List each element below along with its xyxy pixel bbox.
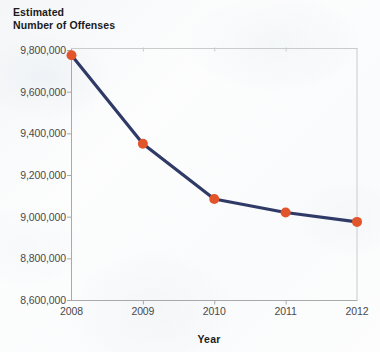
data-markers	[67, 50, 363, 227]
data-point-marker	[67, 50, 77, 60]
data-point-marker	[281, 208, 291, 218]
x-axis-ticks	[143, 48, 286, 305]
x-axis-tick-label: 2012	[346, 305, 369, 317]
x-axis-title: Year	[0, 333, 380, 345]
x-axis-tick-label: 2009	[131, 305, 154, 317]
x-axis-tick-label: 2008	[60, 305, 83, 317]
x-axis-tick-label: 2011	[275, 305, 297, 317]
plot-area	[0, 0, 380, 352]
data-point-marker	[138, 139, 148, 149]
data-point-marker	[352, 217, 362, 227]
x-axis-tick-label: 2010	[203, 305, 226, 317]
chart-container: Estimated Number of Offenses 8,600,0008,…	[0, 0, 380, 352]
x-axis-title-label: Year	[198, 333, 221, 345]
axis-lines	[71, 48, 358, 301]
data-point-marker	[209, 194, 219, 204]
